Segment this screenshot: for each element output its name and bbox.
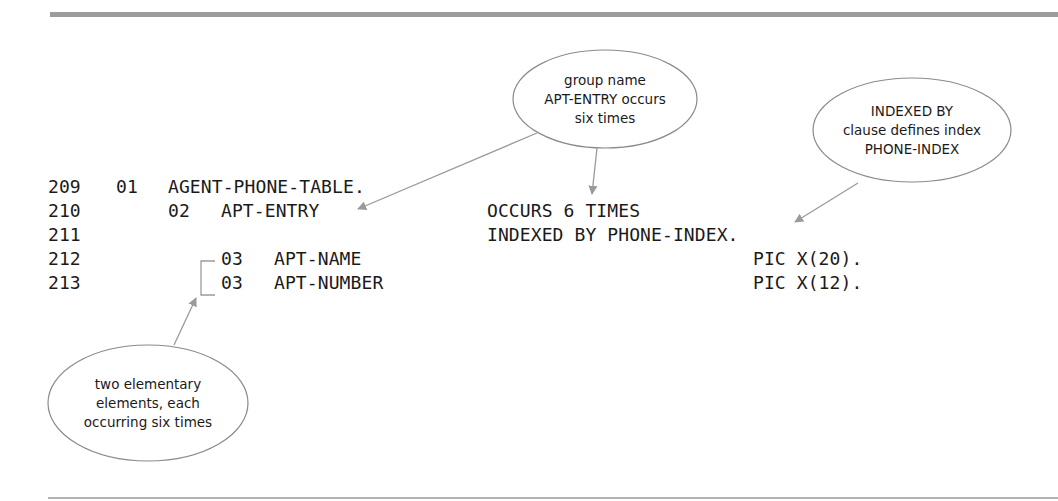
arrow-to-apt-entry bbox=[358, 133, 537, 209]
elementary-items-bracket bbox=[201, 261, 215, 295]
callout-elementary-line-3: occurring six times bbox=[84, 413, 212, 432]
callout-group-name: group name APT-ENTRY occurs six times bbox=[513, 50, 697, 148]
callout-group-name-line-2: APT-ENTRY occurs bbox=[544, 90, 665, 109]
callout-indexed-by-line-3: PHONE-INDEX bbox=[843, 140, 981, 159]
callout-elementary-line-1: two elementary bbox=[84, 375, 212, 394]
callout-indexed-by-line-2: clause defines index bbox=[843, 121, 981, 140]
callout-indexed-by-line-1: INDEXED BY bbox=[843, 102, 981, 121]
arrow-to-occurs bbox=[592, 148, 597, 194]
callout-elementary: two elementary elements, each occurring … bbox=[48, 345, 248, 461]
callout-elementary-line-2: elements, each bbox=[84, 394, 212, 413]
callout-group-name-line-3: six times bbox=[544, 109, 665, 128]
arrow-to-elementary-bracket bbox=[174, 298, 196, 345]
callout-indexed-by: INDEXED BY clause defines index PHONE-IN… bbox=[813, 78, 1011, 182]
bottom-rule bbox=[48, 497, 1058, 499]
callout-group-name-line-1: group name bbox=[544, 71, 665, 90]
arrow-to-indexed-by bbox=[795, 183, 858, 222]
